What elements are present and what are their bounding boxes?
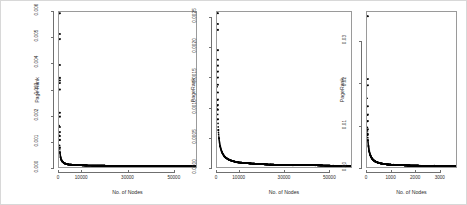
- plot-area-1: [58, 11, 197, 168]
- y-tick-mark: [209, 138, 212, 139]
- y-tick-label: 0.00: [342, 154, 347, 180]
- y-tick-mark: [51, 168, 54, 169]
- x-tick-mark: [216, 170, 217, 173]
- y-tick-label: 0.005: [34, 23, 39, 49]
- y-tick-mark: [51, 142, 54, 143]
- x-axis-title-2: No. of Nodes: [244, 189, 324, 195]
- y-tick-label: 0.004: [34, 49, 39, 75]
- x-axis-line-1: [58, 172, 174, 173]
- x-axis-line-3: [366, 172, 440, 173]
- y-axis-line-2: [211, 17, 212, 168]
- y-tick-label: 0.003: [34, 75, 39, 101]
- x-tick-mark: [58, 170, 59, 173]
- y-tick-mark: [359, 83, 362, 84]
- x-tick-mark: [391, 170, 392, 173]
- y-tick-label: 0.002: [34, 101, 39, 127]
- y-tick-mark: [209, 47, 212, 48]
- y-tick-mark: [209, 108, 212, 109]
- x-tick-label: 50000: [314, 175, 344, 180]
- x-tick-label: 10000: [66, 175, 96, 180]
- x-tick-mark: [284, 170, 285, 173]
- x-tick-mark: [239, 170, 240, 173]
- x-tick-label: 50000: [159, 175, 189, 180]
- y-tick-label: 0.03: [342, 26, 347, 52]
- x-tick-label: 30000: [113, 175, 143, 180]
- x-tick-mark: [174, 170, 175, 173]
- x-tick-label: 10000: [224, 175, 254, 180]
- x-tick-mark: [128, 170, 129, 173]
- x-tick-mark: [440, 170, 441, 173]
- plot-area-2: [216, 11, 352, 168]
- data-points-3: [367, 12, 456, 167]
- y-tick-mark: [209, 77, 212, 78]
- x-tick-label: 30000: [269, 175, 299, 180]
- y-tick-label: 0.001: [34, 127, 39, 153]
- y-tick-label: 0.01: [342, 111, 347, 137]
- y-tick-label: 0.0010: [192, 93, 197, 119]
- x-tick-mark: [329, 170, 330, 173]
- x-tick-mark: [415, 170, 416, 173]
- x-axis-title-1: No. of Nodes: [88, 189, 168, 195]
- y-tick-label: 0.02: [342, 69, 347, 95]
- y-tick-mark: [359, 41, 362, 42]
- y-tick-mark: [209, 168, 212, 169]
- x-axis-line-2: [216, 172, 329, 173]
- y-axis-line-3: [361, 41, 362, 168]
- data-points-2: [217, 12, 351, 167]
- y-tick-mark: [51, 37, 54, 38]
- data-points-1: [59, 12, 196, 167]
- y-tick-mark: [51, 11, 54, 12]
- x-tick-mark: [366, 170, 367, 173]
- y-tick-label: 0.0015: [192, 63, 197, 89]
- y-tick-mark: [51, 116, 54, 117]
- y-tick-label: 0.0020: [192, 33, 197, 59]
- y-tick-label: 0.006: [34, 0, 39, 23]
- y-tick-label: 0.000: [34, 154, 39, 180]
- y-tick-label: 0.0005: [192, 123, 197, 149]
- x-tick-label: 3000: [425, 175, 455, 180]
- x-axis-title-3: No. of Nodes: [372, 189, 452, 195]
- figure-container: Page Rank No. of Nodes 0.0000.0010.0020.…: [0, 0, 467, 205]
- y-tick-mark: [51, 63, 54, 64]
- y-tick-label: 0.0025: [192, 3, 197, 29]
- y-tick-mark: [209, 17, 212, 18]
- plot-area-3: [366, 11, 457, 168]
- x-tick-mark: [81, 170, 82, 173]
- y-tick-label: 0.0000: [192, 154, 197, 180]
- y-tick-mark: [51, 90, 54, 91]
- y-tick-mark: [359, 168, 362, 169]
- y-tick-mark: [359, 126, 362, 127]
